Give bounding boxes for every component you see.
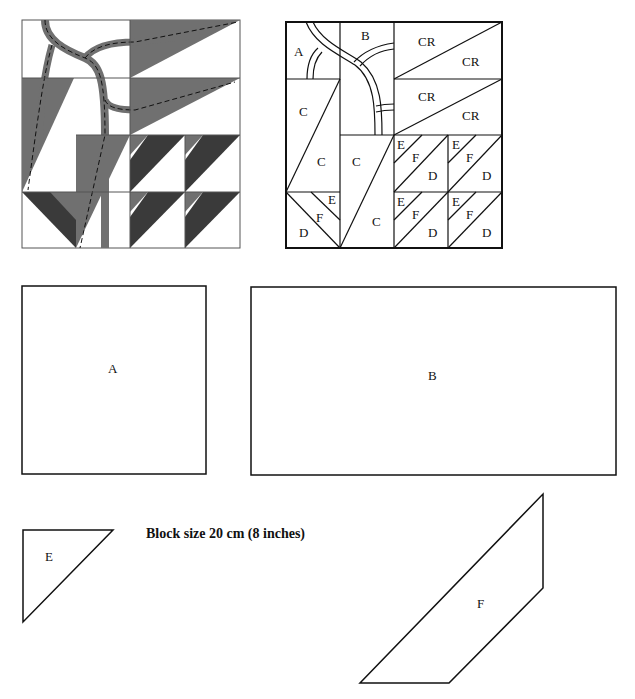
template-e: E	[23, 530, 113, 622]
svg-text:E: E	[328, 192, 336, 207]
svg-text:F: F	[412, 207, 419, 222]
svg-text:A: A	[294, 44, 304, 59]
svg-text:D: D	[482, 168, 491, 183]
svg-text:CR: CR	[418, 34, 436, 49]
svg-text:F: F	[466, 150, 473, 165]
svg-text:F: F	[477, 596, 484, 611]
svg-text:CR: CR	[418, 89, 436, 104]
template-b: B	[251, 287, 616, 475]
template-f: F	[360, 494, 543, 683]
template-a: A	[22, 286, 206, 474]
shaded-block	[22, 20, 240, 248]
svg-text:CR: CR	[462, 54, 480, 69]
svg-text:B: B	[361, 28, 370, 43]
svg-text:D: D	[482, 225, 491, 240]
svg-text:F: F	[316, 210, 323, 225]
svg-text:D: D	[299, 225, 308, 240]
svg-text:A: A	[108, 361, 118, 376]
svg-text:E: E	[452, 137, 460, 152]
svg-text:CR: CR	[462, 108, 480, 123]
svg-text:C: C	[299, 104, 308, 119]
svg-text:C: C	[352, 154, 361, 169]
svg-text:E: E	[452, 194, 460, 209]
svg-text:E: E	[45, 549, 53, 564]
svg-text:F: F	[466, 207, 473, 222]
svg-text:C: C	[317, 154, 326, 169]
svg-text:E: E	[397, 194, 405, 209]
svg-text:E: E	[397, 137, 405, 152]
svg-text:D: D	[428, 168, 437, 183]
svg-text:F: F	[412, 150, 419, 165]
quilt-diagram-canvas: A B CR CR CR CR C C C C E F D E F D E F …	[0, 0, 635, 699]
block-size-caption: Block size 20 cm (8 inches)	[146, 526, 305, 542]
svg-text:B: B	[428, 368, 437, 383]
svg-text:C: C	[372, 214, 381, 229]
svg-text:D: D	[428, 225, 437, 240]
outline-block-labels: A B CR CR CR CR C C C C E F D E F D E F …	[294, 28, 491, 240]
